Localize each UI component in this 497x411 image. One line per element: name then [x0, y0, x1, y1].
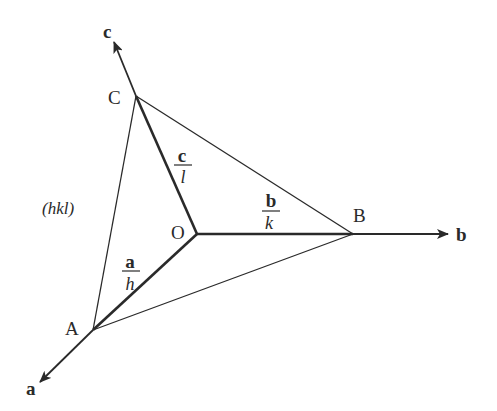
edge-cb	[136, 96, 353, 234]
fraction-a-numerator: a	[125, 251, 135, 272]
fraction-b-over-k: b k	[262, 190, 280, 233]
point-label-b: B	[353, 205, 366, 226]
axis-label-a: a	[26, 378, 36, 399]
axis-label-b: b	[456, 224, 467, 245]
fraction-c-denominator: l	[180, 167, 185, 187]
point-label-origin: O	[171, 222, 185, 243]
fraction-b-denominator: k	[265, 213, 274, 233]
axes-arrows	[40, 42, 448, 382]
point-label-a: A	[65, 318, 79, 339]
fraction-c-numerator: c	[178, 145, 186, 166]
fraction-c-over-l: c l	[174, 145, 192, 187]
fraction-b-numerator: b	[266, 190, 277, 211]
lattice-plane-diagram: c b a C O B A (hkl) c l b k a h	[0, 0, 497, 411]
intercept-segments	[93, 96, 353, 330]
point-label-c: C	[108, 87, 121, 108]
plane-label: (hkl)	[42, 199, 74, 218]
axis-label-c: c	[103, 21, 111, 42]
fraction-a-denominator: h	[126, 274, 135, 294]
